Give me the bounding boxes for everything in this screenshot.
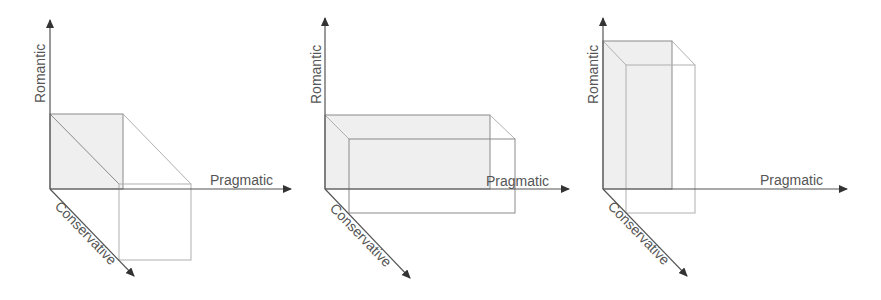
romantic-label: Romantic <box>585 45 601 104</box>
depth-edge <box>672 41 695 65</box>
diagram-2: Romantic Pragmatic Conservative <box>308 18 569 278</box>
front-face <box>119 184 191 260</box>
pragmatic-label: Pragmatic <box>486 173 549 189</box>
diagram-1: Romantic Pragmatic Conservative <box>32 20 291 276</box>
shaded-face-inner <box>349 139 490 189</box>
depth-edge <box>123 114 191 184</box>
pragmatic-label: Pragmatic <box>760 172 823 188</box>
diagram-3: Romantic Pragmatic Conservative <box>585 18 847 276</box>
conservative-label: Conservative <box>327 200 395 270</box>
romantic-label: Romantic <box>308 45 324 104</box>
conservative-label: Conservative <box>52 198 120 268</box>
shaded-face <box>603 41 672 189</box>
pragmatic-label: Pragmatic <box>210 172 273 188</box>
conservative-label: Conservative <box>605 198 673 268</box>
romantic-label: Romantic <box>32 44 48 103</box>
depth-edge <box>490 115 515 139</box>
three-dimensional-diagrams: Romantic Pragmatic Conservative Romantic… <box>0 0 881 300</box>
